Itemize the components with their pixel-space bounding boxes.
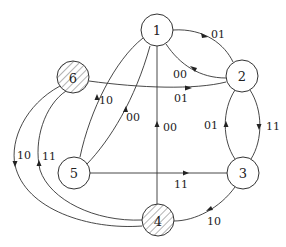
- arrow-icon: [185, 86, 192, 91]
- edge-label: 01: [211, 28, 225, 41]
- edge-label: 11: [42, 150, 56, 163]
- node-2: 2: [226, 60, 258, 92]
- node-label: 6: [69, 71, 77, 86]
- edge-5-to-3: 11: [90, 171, 227, 191]
- node-6: 6: [57, 61, 89, 93]
- arrow-icon: [201, 33, 208, 38]
- node-label: 2: [238, 69, 246, 84]
- edge-3-to-4: 10: [174, 187, 235, 228]
- edge-label: 10: [17, 149, 31, 162]
- node-label: 3: [239, 166, 247, 181]
- arrow-icon: [183, 171, 189, 176]
- edge-3-to-2: 01: [204, 90, 235, 159]
- edge-label: 01: [174, 92, 188, 105]
- node-label: 1: [153, 23, 161, 38]
- arrow-icon: [13, 161, 18, 167]
- node-3: 3: [227, 157, 259, 189]
- edge-2-to-3: 11: [250, 90, 280, 159]
- edge-1-to-2: 01: [173, 28, 233, 63]
- node-5: 5: [58, 157, 90, 189]
- edge-label: 00: [126, 111, 140, 124]
- arrow-icon: [155, 121, 160, 127]
- edge-label: 01: [204, 119, 218, 132]
- edge-6-to-4: 10: [13, 86, 143, 226]
- arrow-icon: [37, 160, 42, 166]
- arrow-icon: [206, 206, 213, 211]
- state-diagram: 01 00 01 10 00 00 01 11: [0, 0, 286, 247]
- arrow-icon: [224, 121, 229, 127]
- edge-2-to-1: 00: [166, 44, 226, 81]
- node-label: 5: [70, 166, 78, 181]
- edge-label: 10: [207, 215, 221, 228]
- node-label: 4: [154, 214, 162, 229]
- edge-label: 11: [174, 178, 188, 191]
- edge-label: 00: [163, 121, 177, 134]
- edge-label: 10: [99, 94, 113, 107]
- arrow-icon: [257, 124, 262, 130]
- edge-1-to-5: 10: [80, 38, 143, 157]
- edge-label: 00: [173, 68, 187, 81]
- edge-label: 11: [266, 120, 280, 133]
- node-4: 4: [142, 204, 174, 236]
- node-1: 1: [141, 14, 173, 46]
